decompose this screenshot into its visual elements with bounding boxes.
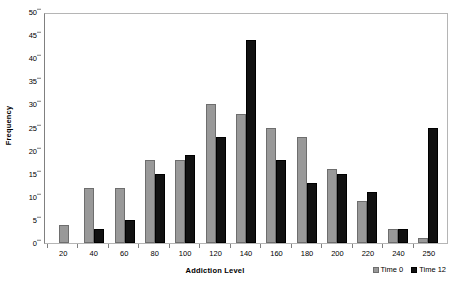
x-axis-tick-label: 200	[322, 250, 352, 258]
x-axis-tick: 200	[322, 244, 352, 264]
x-axis-tick-mark	[352, 244, 353, 248]
bar-time-12-220	[367, 192, 377, 243]
x-axis-tick: 160	[261, 244, 291, 264]
x-axis-tick-mark	[199, 244, 200, 248]
bar-chart: Frequency 05101520253035404550 204060801…	[0, 0, 452, 291]
bar-time-12-120	[216, 137, 226, 243]
y-axis-tick-label: 0	[33, 240, 37, 248]
x-axis-tick: 220	[353, 244, 383, 264]
bar-time-0-60	[115, 188, 125, 243]
x-axis-tick-label: 240	[383, 250, 413, 258]
y-axis-tick-label: 20	[29, 148, 37, 156]
bar-group	[261, 14, 291, 243]
x-axis-tick-mark	[413, 244, 414, 248]
x-axis-tick-mark	[260, 244, 261, 248]
y-axis-tick-label: 45	[29, 32, 37, 40]
bar-time-0-80	[145, 160, 155, 243]
bar-time-0-200	[327, 169, 337, 243]
x-axis-tick: 120	[200, 244, 230, 264]
bar-group	[413, 14, 443, 243]
bar-time-12-240	[398, 229, 408, 243]
bar-group	[79, 14, 109, 243]
bar-time-12-80	[155, 174, 165, 243]
x-axis-tick-label: 80	[139, 250, 169, 258]
chart-legend: Time 0Time 12	[373, 265, 446, 274]
x-axis-tick-mark	[169, 244, 170, 248]
x-axis-tick-mark	[108, 244, 109, 248]
bar-time-12-180	[307, 183, 317, 243]
bar-time-0-240	[388, 229, 398, 243]
bar-time-0-160	[266, 128, 276, 244]
y-axis-tick-label: 15	[29, 171, 37, 179]
x-axis-tick-label: 20	[48, 250, 78, 258]
bar-time-0-20	[59, 225, 69, 243]
bar-time-12-160	[276, 160, 286, 243]
y-axis-title-label: Frequency	[5, 105, 14, 145]
bar-time-0-220	[357, 201, 367, 243]
bar-time-0-140	[236, 114, 246, 243]
y-axis-tick-label: 5	[33, 217, 37, 225]
y-axis-tick-label: 25	[29, 125, 37, 133]
legend-item-label: Time 12	[419, 265, 446, 274]
x-axis-title: Addiction Level	[150, 266, 280, 275]
y-axis-tick-mark	[37, 124, 41, 125]
legend-swatch-black	[411, 267, 417, 273]
x-axis-tick: 80	[139, 244, 169, 264]
y-axis-tick-mark	[37, 194, 41, 195]
bar-group	[201, 14, 231, 243]
x-axis-tick-label: 40	[78, 250, 108, 258]
x-axis-tick-mark	[291, 244, 292, 248]
bar-time-0-180	[297, 137, 307, 243]
bar-group	[110, 14, 140, 243]
bar-group	[352, 14, 382, 243]
y-axis-tick-mark	[37, 78, 41, 79]
bar-time-12-100	[185, 155, 195, 243]
x-axis-tick: 40	[78, 244, 108, 264]
bar-time-12-40	[94, 229, 104, 243]
y-axis-ticks: 05101520253035404550	[16, 8, 40, 248]
bar-group	[231, 14, 261, 243]
x-axis-tick-label: 60	[109, 250, 139, 258]
y-axis-tick-mark	[37, 170, 41, 171]
x-axis-tick-mark	[230, 244, 231, 248]
bar-time-0-40	[84, 188, 94, 243]
x-axis-tick-label: 160	[261, 250, 291, 258]
y-axis-tick-label: 10	[29, 194, 37, 202]
x-axis-tick-label: 180	[292, 250, 322, 258]
y-axis-tick-mark	[37, 147, 41, 148]
bar-group	[292, 14, 322, 243]
x-axis-tick: 100	[170, 244, 200, 264]
x-axis-tick: 180	[292, 244, 322, 264]
y-axis-tick-mark	[37, 32, 41, 33]
bar-time-0-120	[206, 104, 216, 243]
bar-group	[322, 14, 352, 243]
bars-container	[45, 14, 447, 243]
x-axis-tick: 20	[48, 244, 78, 264]
y-axis-tick-mark	[37, 217, 41, 218]
bar-group	[49, 14, 79, 243]
x-axis-tick-mark	[321, 244, 322, 248]
bar-group	[140, 14, 170, 243]
x-axis-tick-label: 140	[231, 250, 261, 258]
legend-item: Time 0	[373, 265, 404, 274]
x-axis-tick-label: 220	[353, 250, 383, 258]
y-axis-tick-label: 30	[29, 102, 37, 110]
y-axis-tick-mark	[37, 101, 41, 102]
legend-item: Time 12	[411, 265, 446, 274]
x-axis-tick-mark	[138, 244, 139, 248]
bar-time-12-200	[337, 174, 347, 243]
x-axis-tick-mark	[382, 244, 383, 248]
y-axis-tick-mark	[37, 55, 41, 56]
bar-group	[382, 14, 412, 243]
x-axis-tick: 60	[109, 244, 139, 264]
x-axis-tick-mark	[77, 244, 78, 248]
bar-time-0-100	[175, 160, 185, 243]
y-axis-tick-label: 40	[29, 55, 37, 63]
x-axis: 20406080100120140160180200220240250	[44, 244, 448, 264]
y-axis-tick-mark	[37, 240, 41, 241]
bar-group	[170, 14, 200, 243]
legend-item-label: Time 0	[381, 265, 404, 274]
x-axis-tick-label: 100	[170, 250, 200, 258]
y-axis-tick-label: 35	[29, 79, 37, 87]
plot-area	[44, 13, 448, 244]
